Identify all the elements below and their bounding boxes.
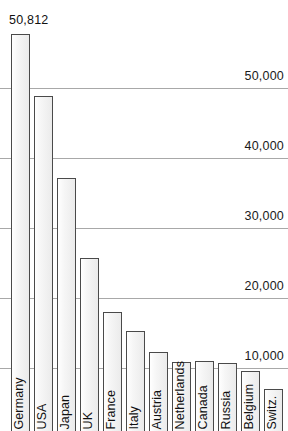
bar-usa <box>34 96 53 431</box>
x-axis-label-italy: Italy <box>128 406 141 429</box>
x-axis-label-germany: Germany <box>13 377 26 429</box>
x-axis-label-japan: Japan <box>59 394 72 429</box>
x-axis-label-belgium: Belgium <box>243 383 256 429</box>
bar-fill <box>12 35 29 431</box>
x-axis-label-france: France <box>105 389 118 429</box>
x-axis-label-austria: Austria <box>151 389 164 429</box>
x-axis-label-uk: UK <box>82 411 95 429</box>
bar-germany <box>11 34 30 431</box>
x-axis-label-canada: Canada <box>197 385 210 429</box>
x-axis-label-switz: Switz. <box>266 395 279 429</box>
bar-uk <box>80 258 99 431</box>
gridline <box>0 88 288 89</box>
y-axis-tick-label: 30,000 <box>245 210 284 223</box>
bar-fill <box>81 259 98 431</box>
bar-fill <box>35 97 52 431</box>
x-axis-label-russia: Russia <box>220 390 233 429</box>
y-axis-tick-label: 50,000 <box>245 70 284 83</box>
y-axis-tick-label: 10,000 <box>245 350 284 363</box>
x-axis-label-netherlands: Netherlands <box>174 360 187 429</box>
bar-fill <box>58 179 75 431</box>
y-axis-tick-label: 40,000 <box>245 140 284 153</box>
y-axis-tick-label: 20,000 <box>245 280 284 293</box>
value-label-germany: 50,812 <box>9 14 48 27</box>
bar-japan <box>57 178 76 431</box>
bar-chart: 50,00040,00030,00020,00010,000 GermanyUS… <box>0 0 288 431</box>
x-axis-label-usa: USA <box>36 403 49 429</box>
